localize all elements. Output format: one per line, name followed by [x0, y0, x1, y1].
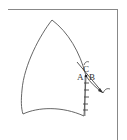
label-a: A — [77, 72, 84, 82]
pattern-outline — [21, 20, 86, 116]
label-b: B — [89, 72, 95, 82]
arrow-icon — [98, 88, 103, 93]
point-a-dot — [85, 75, 88, 78]
diagram-canvas: C A B — [0, 0, 127, 140]
